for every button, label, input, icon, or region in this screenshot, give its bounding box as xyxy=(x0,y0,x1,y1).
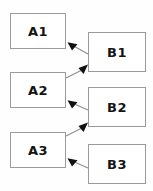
node-b1[interactable]: B1 xyxy=(88,32,146,72)
node-a2[interactable]: A2 xyxy=(10,72,66,108)
edge-b2-to-a2 xyxy=(68,100,89,110)
node-b1-label: B1 xyxy=(107,46,127,59)
node-a1[interactable]: A1 xyxy=(10,13,66,49)
node-a3[interactable]: A3 xyxy=(10,132,66,168)
node-b2-label: B2 xyxy=(107,101,127,114)
edge-b1-to-a1 xyxy=(68,42,89,54)
node-b2[interactable]: B2 xyxy=(88,87,146,127)
node-a3-label: A3 xyxy=(28,144,48,157)
node-b3[interactable]: B3 xyxy=(88,144,146,184)
edge-a3-to-b2 xyxy=(66,123,88,136)
edge-b3-to-a3 xyxy=(68,158,89,168)
diagram-canvas: A1 A2 A3 B1 B2 B3 xyxy=(0,0,153,191)
node-a2-label: A2 xyxy=(28,84,48,97)
edge-a2-to-b1 xyxy=(66,65,88,78)
node-b3-label: B3 xyxy=(107,158,127,171)
node-a1-label: A1 xyxy=(28,25,48,38)
